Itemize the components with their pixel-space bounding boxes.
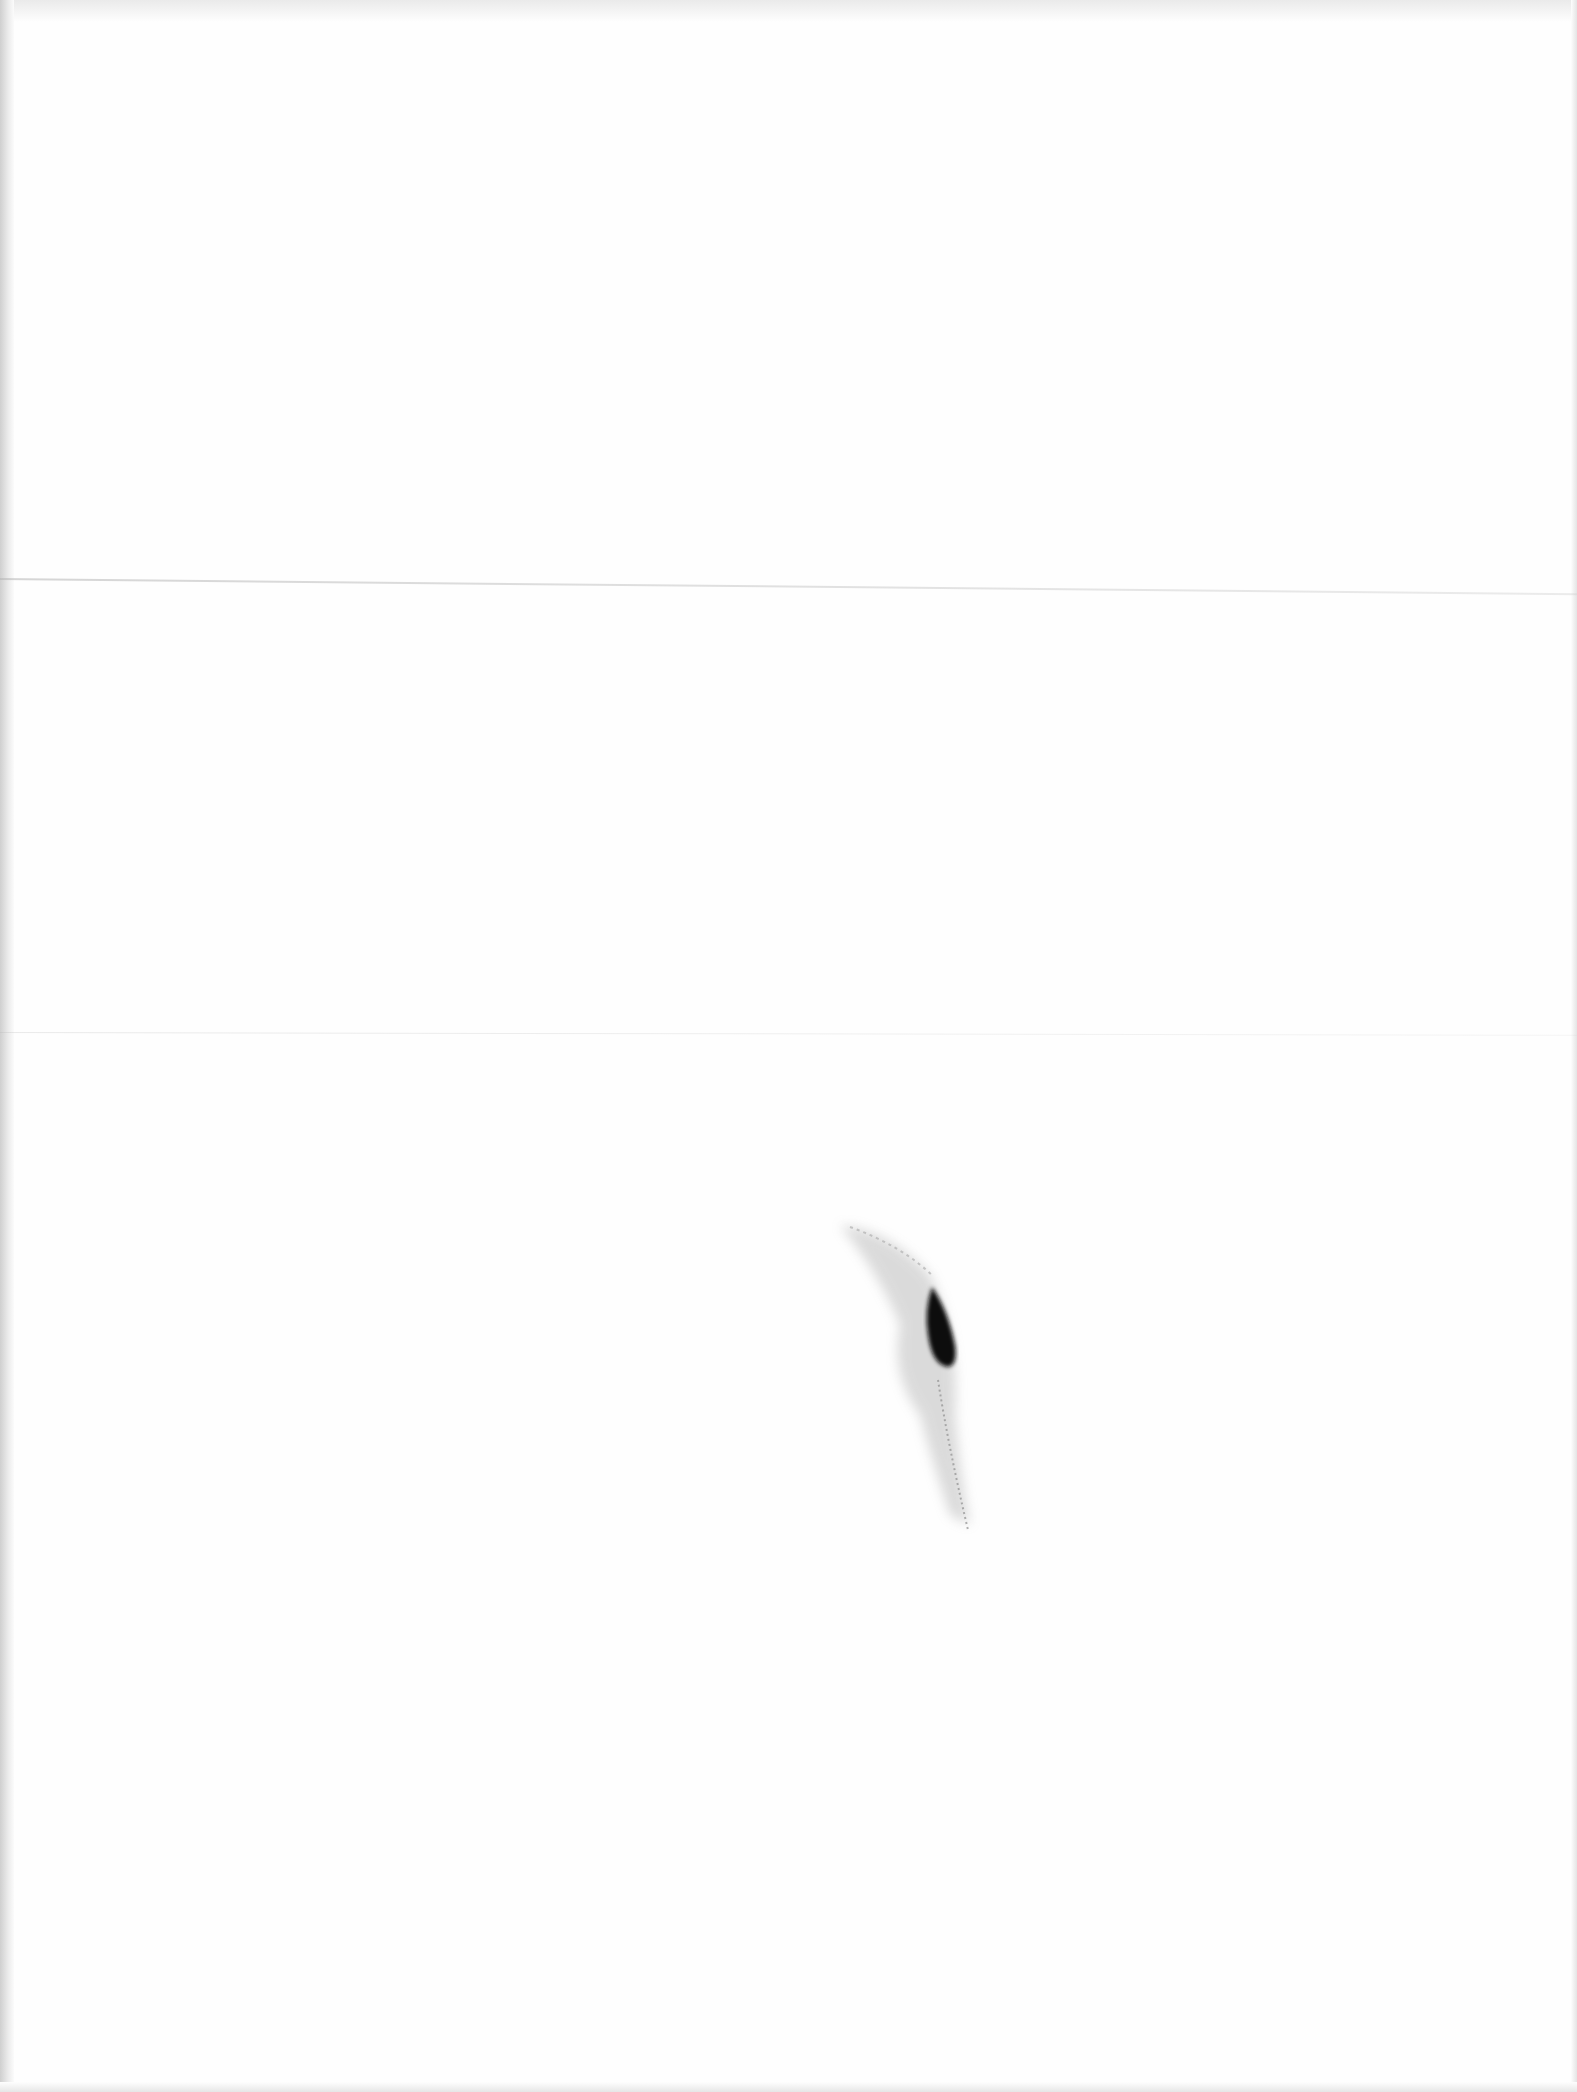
ink-smudge-icon (820, 1215, 980, 1535)
top-edge-shadow (0, 0, 1577, 22)
bottom-edge-shadow (0, 2082, 1577, 2092)
fold-crease-lower (0, 1032, 1577, 1036)
right-edge-shadow (1571, 0, 1577, 2092)
left-edge-shadow (0, 0, 14, 2092)
scanned-page (0, 0, 1577, 2092)
fold-crease-upper (0, 578, 1577, 595)
